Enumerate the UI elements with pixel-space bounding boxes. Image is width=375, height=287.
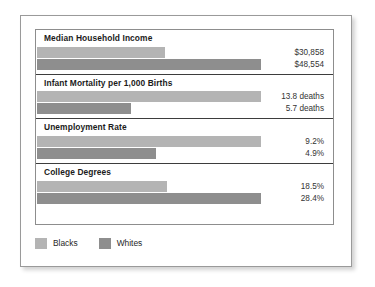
- bar-row: [37, 91, 261, 102]
- value-label-blacks: 13.8 deaths: [261, 91, 324, 102]
- bar-whites: [37, 103, 131, 114]
- values-column: 13.8 deaths 5.7 deaths: [261, 91, 333, 114]
- bar-row: [37, 136, 261, 147]
- chart-table: Median Household Income $30,858 $48,554: [35, 29, 334, 225]
- chart-legend: Blacks Whites: [35, 238, 163, 249]
- metric-body: $30,858 $48,554: [36, 47, 333, 74]
- bar-row: [37, 103, 261, 114]
- value-label-whites: $48,554: [261, 59, 324, 70]
- metric-title: Median Household Income: [36, 30, 333, 47]
- metric-title: Infant Mortality per 1,000 Births: [36, 75, 333, 92]
- legend-label-blacks: Blacks: [53, 238, 78, 249]
- bar-row: [37, 47, 261, 58]
- legend-item-whites: Whites: [99, 238, 143, 249]
- metric-group-median-household-income: Median Household Income $30,858 $48,554: [36, 30, 333, 75]
- bars-column: [36, 136, 261, 159]
- metric-group-college-degrees: College Degrees 18.5% 28.4%: [36, 164, 333, 208]
- bars-column: [36, 47, 261, 70]
- value-label-whites: 4.9%: [261, 148, 324, 159]
- metric-title: Unemployment Rate: [36, 119, 333, 136]
- bar-row: [37, 59, 261, 70]
- bars-column: [36, 181, 261, 204]
- value-label-whites: 28.4%: [261, 193, 324, 204]
- metric-body: 13.8 deaths 5.7 deaths: [36, 91, 333, 118]
- bar-whites: [37, 193, 261, 204]
- value-label-blacks: 18.5%: [261, 181, 324, 192]
- values-column: 9.2% 4.9%: [261, 136, 333, 159]
- legend-swatch-blacks: [35, 238, 47, 249]
- bar-blacks: [37, 47, 165, 58]
- chart-frame: Median Household Income $30,858 $48,554: [20, 15, 352, 267]
- legend-label-whites: Whites: [117, 238, 143, 249]
- bar-whites: [37, 59, 261, 70]
- metric-group-infant-mortality: Infant Mortality per 1,000 Births 13.8 d…: [36, 75, 333, 120]
- bar-blacks: [37, 136, 261, 147]
- value-label-whites: 5.7 deaths: [261, 103, 324, 114]
- bar-row: [37, 181, 261, 192]
- value-label-blacks: $30,858: [261, 47, 324, 58]
- values-column: 18.5% 28.4%: [261, 181, 333, 204]
- metric-group-unemployment-rate: Unemployment Rate 9.2% 4.9%: [36, 119, 333, 164]
- bar-whites: [37, 148, 156, 159]
- legend-swatch-whites: [99, 238, 111, 249]
- legend-item-blacks: Blacks: [35, 238, 78, 249]
- metric-title: College Degrees: [36, 164, 333, 181]
- metric-body: 18.5% 28.4%: [36, 181, 333, 208]
- bars-column: [36, 91, 261, 114]
- value-label-blacks: 9.2%: [261, 136, 324, 147]
- bar-blacks: [37, 181, 167, 192]
- bar-blacks: [37, 91, 261, 102]
- bar-row: [37, 193, 261, 204]
- metric-body: 9.2% 4.9%: [36, 136, 333, 163]
- bar-row: [37, 148, 261, 159]
- values-column: $30,858 $48,554: [261, 47, 333, 70]
